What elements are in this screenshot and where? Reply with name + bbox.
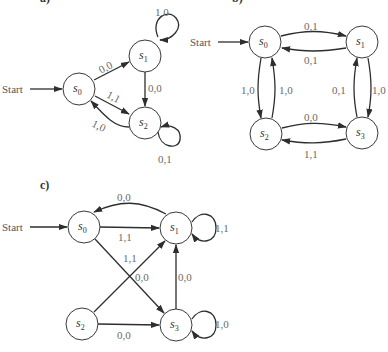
edge-label-b-s0-s2: 1,0 bbox=[241, 84, 255, 96]
edge-c-s1-s0 bbox=[94, 203, 166, 214]
panel-label-a: a) bbox=[40, 0, 50, 5]
edge-b-s0-s1 bbox=[281, 32, 346, 37]
edge-c-s0-s3 bbox=[95, 239, 164, 313]
edge-label-b-s3-s2: 1,1 bbox=[304, 148, 318, 160]
edge-c-s1-loop bbox=[192, 214, 216, 241]
start-label-b: Start bbox=[190, 36, 211, 48]
edge-label-c-s2-s1: 1,1 bbox=[123, 252, 137, 264]
edge-label-c-s0-s3: 0,0 bbox=[135, 271, 149, 283]
edge-label-a-s2-s0: 1,0 bbox=[90, 117, 108, 134]
edge-a-s2-loop bbox=[158, 126, 180, 146]
state-c-s3: s3 bbox=[160, 309, 192, 341]
edge-label-b-s3-s1: 0,1 bbox=[332, 84, 346, 96]
edge-label-c-s1-loop: 1,1 bbox=[215, 222, 229, 234]
edge-b-s1-s3 bbox=[368, 58, 371, 117]
edge-b-s1-s0 bbox=[282, 48, 346, 51]
edge-label-c-s2-s3: 0,0 bbox=[117, 329, 131, 341]
edge-label-b-s1-s0: 0,1 bbox=[304, 54, 318, 66]
edge-b-s2-s3 bbox=[282, 123, 346, 128]
state-b-s2: s2 bbox=[250, 118, 282, 150]
state-diagrams: a) Start 0,0 1,1 1,0 0,0 1,0 0,1 s0 s1 s… bbox=[0, 0, 388, 352]
edge-label-c-s1-s0: 0,0 bbox=[117, 191, 131, 203]
start-label-c: Start bbox=[2, 221, 23, 233]
panel-label-b: b) bbox=[232, 0, 243, 5]
edge-label-c-s0-s1: 1,1 bbox=[118, 231, 132, 243]
edge-label-c-s3-s1: 0,0 bbox=[178, 271, 192, 283]
edge-label-a-s2-loop: 0,1 bbox=[158, 153, 172, 165]
edge-c-s3-loop bbox=[192, 311, 216, 338]
start-label-a: Start bbox=[2, 83, 23, 95]
edge-label-a-s0-s1: 0,0 bbox=[97, 58, 115, 75]
edge-b-s2-s0 bbox=[272, 58, 275, 118]
edge-b-s3-s2 bbox=[282, 139, 346, 143]
diagram-c: c) Start 0,0 1,1 1,1 1,1 0,0 0,0 0,0 1,0… bbox=[2, 178, 229, 341]
edge-label-b-s0-s1: 0,1 bbox=[304, 20, 318, 32]
edge-b-s3-s1 bbox=[354, 58, 357, 117]
edge-label-b-s2-s3: 0,0 bbox=[304, 111, 318, 123]
state-b-s1: s1 bbox=[346, 26, 378, 58]
panel-label-c: c) bbox=[40, 178, 49, 192]
edge-c-s2-s3 bbox=[98, 324, 159, 325]
edge-label-c-s3-loop: 1,0 bbox=[215, 318, 229, 330]
state-c-s0: s0 bbox=[68, 211, 100, 243]
edge-label-b-s2-s0: 1,0 bbox=[279, 84, 293, 96]
state-b-s0: s0 bbox=[249, 26, 281, 58]
edge-label-a-s1-loop: 1,0 bbox=[155, 6, 169, 18]
diagram-a: a) Start 0,0 1,1 1,0 0,0 1,0 0,1 s0 s1 s… bbox=[2, 0, 180, 165]
edge-label-a-s1-s2: 0,0 bbox=[148, 82, 162, 94]
state-c-s2: s2 bbox=[66, 308, 98, 340]
edge-c-s0-s1 bbox=[100, 227, 159, 228]
state-a-s2: s2 bbox=[129, 107, 161, 139]
edge-b-s0-s2 bbox=[258, 58, 261, 118]
state-a-s1: s1 bbox=[129, 40, 161, 72]
state-a-s0: s0 bbox=[63, 73, 95, 105]
state-b-s3: s3 bbox=[346, 117, 378, 149]
diagram-b: b) Start 0,1 0,1 1,0 1,0 0,1 1,0 0,0 1,1… bbox=[190, 0, 386, 160]
state-c-s1: s1 bbox=[160, 212, 192, 244]
edge-label-b-s1-s3: 1,0 bbox=[372, 84, 386, 96]
